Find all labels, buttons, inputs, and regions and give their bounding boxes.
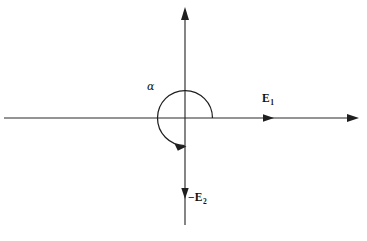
label-alpha-angle: α	[147, 81, 154, 92]
label-neg-e2-subscript: 2	[203, 197, 207, 206]
vertical-axis-arrowhead-icon	[181, 7, 189, 20]
vector-angle-diagram: E1 −E2 α	[0, 0, 367, 241]
label-neg-e2: −E2	[188, 192, 207, 204]
horizontal-axis-arrowhead-icon	[347, 114, 359, 122]
label-e1-base: E	[262, 92, 270, 104]
e1-vector-arrowhead-icon	[263, 114, 274, 121]
label-e1: E1	[262, 93, 274, 105]
label-e1-subscript: 1	[270, 98, 274, 107]
label-neg-e2-base: −E	[188, 191, 203, 203]
diagram-canvas	[0, 0, 367, 241]
